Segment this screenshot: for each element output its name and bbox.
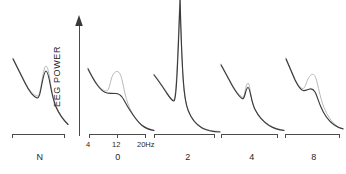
spectrum-curve-light <box>221 64 284 130</box>
panel-2: 2 <box>150 0 226 174</box>
x-tick-label-4: 4 <box>86 140 90 149</box>
panel-label-8: 8 <box>282 152 346 162</box>
panel-label-n: N <box>4 152 76 162</box>
panel-label-2: 2 <box>150 152 226 162</box>
spectrum-curve-dark <box>221 65 284 131</box>
panel-label-4: 4 <box>216 152 288 162</box>
spectrum-curve-dark <box>154 0 220 132</box>
panel-8: 8 <box>282 0 346 174</box>
x-axis-bracket <box>285 134 339 138</box>
spectrum-curve-dark <box>88 69 154 131</box>
up-arrow-icon <box>75 15 83 26</box>
x-axis-ticks <box>89 134 145 138</box>
spectrum-curve-light <box>286 58 343 129</box>
spectrum-curve-light <box>88 68 154 130</box>
panel-0: 4 12 20Hz 0 <box>84 0 160 174</box>
spectrum-curve-dark <box>13 59 68 125</box>
x-axis-bracket <box>221 134 277 138</box>
x-axis-bracket <box>154 134 214 138</box>
eeg-power-spectra-figure: EEG POWER N 4 12 20Hz 0 2 <box>0 0 346 174</box>
panel-label-0: 0 <box>98 152 138 162</box>
x-tick-label-12: 12 <box>112 140 120 149</box>
panel-4: 4 <box>216 0 288 174</box>
panel-n: N <box>4 0 76 174</box>
x-axis-bracket <box>12 134 64 138</box>
spectrum-curve-dark <box>286 59 343 129</box>
spectrum-curve-light <box>154 0 220 132</box>
